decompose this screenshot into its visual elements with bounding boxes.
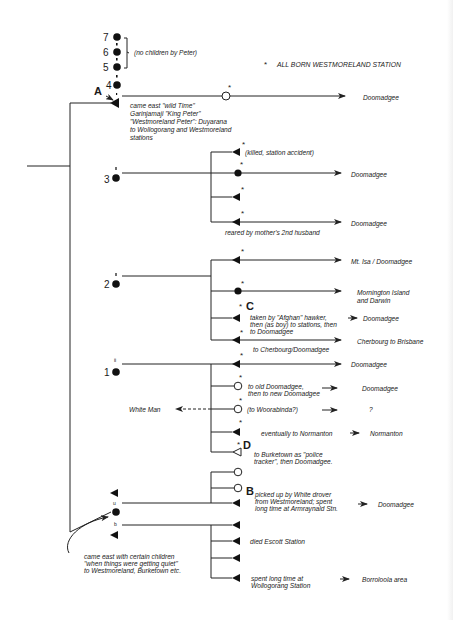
svg-text:*: *	[242, 140, 245, 149]
svg-text:reared by mother's 2nd husband: reared by mother's 2nd husband	[225, 229, 320, 237]
white-man-label: White Man	[129, 406, 161, 413]
svg-text:*: *	[239, 418, 242, 427]
svg-text:to Doomadgee: to Doomadgee	[250, 328, 294, 336]
wife-1-number: 1	[104, 367, 110, 378]
svg-text:*: *	[239, 396, 242, 405]
svg-text:*: *	[240, 160, 243, 169]
svg-text:*: *	[228, 83, 231, 92]
svg-text:*: *	[241, 209, 244, 218]
svg-text:to Cherbourg/Doomadgee: to Cherbourg/Doomadgee	[253, 346, 330, 354]
svg-text:came east with certain childre: came east with certain children	[84, 553, 175, 560]
legend: * ALL BORN WESTMORELAND STATION	[264, 60, 401, 69]
svg-text:"Westmoreland Peter": Duyarana: "Westmoreland Peter": Duyarana	[130, 118, 227, 126]
legend-text: ALL BORN WESTMORELAND STATION	[276, 61, 401, 68]
wife-3-family: 3 * (killed, station accident) * Doomadg…	[104, 140, 387, 237]
svg-text:Garinjamaji "King Peter": Garinjamaji "King Peter"	[130, 110, 201, 118]
wife-2-family: 2 * Mt. Isa / Doomadgee * Mornington Isl…	[104, 247, 424, 354]
husband-b-triangle	[110, 531, 118, 539]
svg-text:died Escott Station: died Escott Station	[250, 538, 305, 545]
wife-7-number: 7	[103, 32, 109, 43]
svg-text:long time at Armraynald Stn.: long time at Armraynald Stn.	[255, 505, 338, 513]
wife-5-number: 5	[103, 62, 109, 73]
wife-2-circle	[112, 280, 120, 288]
svg-text:?: ?	[369, 406, 373, 413]
svg-text:Doomadgee: Doomadgee	[363, 315, 399, 323]
no-children-note: (no children by Peter)	[134, 49, 197, 57]
svg-text:came east "wild Time": came east "wild Time"	[130, 102, 195, 109]
svg-text:stations: stations	[130, 134, 153, 141]
svg-text:*: *	[240, 351, 243, 360]
marker-a: A	[94, 85, 102, 97]
svg-text:ii: ii	[114, 357, 116, 363]
man-a: A * Doomadgee came east "wild Time" Gari…	[94, 83, 399, 141]
wife-3-circle	[112, 174, 120, 182]
svg-text:b: b	[114, 521, 117, 527]
husband-u-triangle	[110, 489, 118, 497]
wives-4-to-7: 7 6 5 4 (no children by Peter)	[103, 32, 197, 95]
svg-text:Wollogorang Station: Wollogorang Station	[251, 582, 311, 590]
svg-text:Cherbourg to Brisbane: Cherbourg to Brisbane	[357, 338, 424, 346]
svg-text:*: *	[239, 302, 242, 311]
page-edge-shadow	[447, 0, 453, 620]
svg-text:then to new Doomadgee: then to new Doomadgee	[248, 390, 320, 398]
svg-text:Mt. Isa / Doomadgee: Mt. Isa / Doomadgee	[351, 258, 413, 266]
curved-pointer-arrow	[67, 517, 108, 553]
wife-1-family: 1 ii * Doomadgee * to old Doomadgee, the…	[104, 351, 403, 466]
svg-text:*: *	[240, 328, 243, 337]
svg-text:u: u	[113, 500, 116, 506]
wife-1-circle	[112, 368, 120, 376]
marker-c: C	[246, 300, 254, 312]
last-wife-circle	[112, 508, 120, 516]
marker-b: B	[246, 485, 254, 497]
svg-text:*: *	[241, 279, 244, 288]
svg-text:(to Woorabinda?): (to Woorabinda?)	[247, 406, 298, 414]
svg-text:Borroloola area: Borroloola area	[362, 576, 407, 583]
genealogy-diagram: * ALL BORN WESTMORELAND STATION 7 6 5 4 …	[0, 0, 453, 620]
svg-text:tracker", then Doomadgee.: tracker", then Doomadgee.	[254, 458, 333, 466]
svg-text:Doomadgee: Doomadgee	[351, 220, 387, 228]
wife-6-number: 6	[103, 47, 109, 58]
last-wife-family: u b B picked up by White drover from Wes…	[67, 468, 414, 590]
svg-text:Doomadgee: Doomadgee	[362, 385, 398, 393]
svg-text:*: *	[241, 185, 244, 194]
man-a-child-destination: Doomadgee	[363, 94, 399, 102]
legend-star-icon: *	[264, 60, 267, 69]
wife-6-circle	[113, 48, 121, 56]
svg-text:and Darwin: and Darwin	[357, 297, 391, 304]
wife-4-number: 4	[106, 80, 112, 91]
svg-text:*: *	[237, 440, 240, 449]
svg-text:Mornington Island: Mornington Island	[357, 289, 410, 297]
trunk-lines	[27, 103, 111, 532]
svg-text:eventually to Normanton: eventually to Normanton	[261, 430, 333, 438]
wife-3-number: 3	[104, 174, 110, 185]
man-a-child-circle	[222, 92, 230, 100]
wife-7-circle	[113, 33, 121, 41]
svg-text:to Wollogorang and Westmorelan: to Wollogorang and Westmoreland	[130, 126, 232, 134]
svg-text:(killed, station accident): (killed, station accident)	[245, 149, 314, 157]
wife-2-number: 2	[104, 279, 110, 290]
svg-text:Doomadgee: Doomadgee	[351, 361, 387, 369]
svg-text:Normanton: Normanton	[370, 430, 403, 437]
svg-text:to Westmoreland, Burketown etc: to Westmoreland, Burketown etc.	[84, 567, 181, 574]
wife-4-circle	[113, 81, 121, 89]
marker-d: D	[243, 439, 251, 451]
svg-text:Doomadgee: Doomadgee	[378, 501, 414, 509]
svg-text:Doomadgee: Doomadgee	[351, 171, 387, 179]
wife-5-circle	[113, 63, 121, 71]
svg-text:*: *	[239, 373, 242, 382]
svg-text:*: *	[241, 247, 244, 256]
bracket	[124, 38, 129, 68]
